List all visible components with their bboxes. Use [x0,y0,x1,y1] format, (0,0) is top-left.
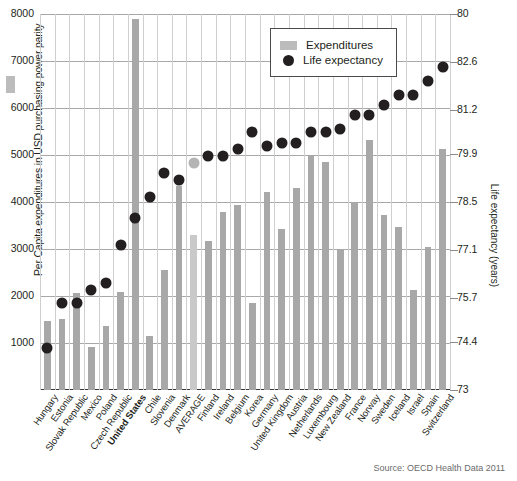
y-tick-right-74.4: 74.4 [457,335,477,347]
y-tick-right-73: 73 [457,383,469,395]
dot-united-kingdom [276,137,287,148]
y-tick-right-82.6: 82.6 [457,55,477,67]
dot-denmark [174,175,185,186]
y-tick-right-77.1: 77.1 [457,243,477,255]
dot-average [188,158,199,169]
dot-norway [364,110,375,121]
y-tick-right-78.5: 78.5 [457,195,477,207]
y-tick-mark-right [450,342,458,343]
source-note: Source: OECD Health Data 2011 [374,463,505,473]
y-tick-mark-right [450,390,458,391]
y-tick-mark-right [450,62,458,63]
dot-netherlands [305,127,316,138]
legend-label-expenditures: Expenditures [306,39,373,51]
legend-item-life-expectancy: Life expectancy [280,54,383,66]
dot-austria [291,137,302,148]
y-tick-left-2000: 2000 [11,289,34,301]
legend-label-life-expectancy: Life expectancy [303,54,383,66]
dot-switzerland [437,62,448,73]
dot-ireland [218,151,229,162]
dot-chile [144,192,155,203]
y-axis-right-title: Life expectancy (years) [489,141,500,331]
dot-new-zealand [335,123,346,134]
dot-spain [423,76,434,87]
chart-legend: Expenditures Life expectancy [270,28,397,77]
y-axis-swatch-icon [6,76,15,93]
y-tick-mark-right [450,250,458,251]
y-tick-mark-right [450,202,458,203]
dot-united-states [130,212,141,223]
dot-korea [247,127,258,138]
y-tick-right-75.7: 75.7 [457,291,477,303]
dot-israel [408,89,419,100]
dot-estonia [56,298,67,309]
y-tick-mark-right [450,110,458,111]
dot-hungary [42,342,53,353]
x-axis-labels: HungaryEstoniaSlovak RepublicMexicoPolan… [40,392,450,468]
y-tick-right-80: 80 [457,7,469,19]
dot-luxembourg [320,127,331,138]
dot-finland [203,151,214,162]
dot-belgium [232,144,243,155]
y-tick-left-7000: 7000 [11,54,34,66]
dot-mexico [86,284,97,295]
dot-germany [261,140,272,151]
y-tick-left-1000: 1000 [11,336,34,348]
y-tick-right-81.2: 81.2 [457,103,477,115]
y-tick-left-8000: 8000 [11,7,34,19]
y-tick-left-3000: 3000 [11,242,34,254]
y-tick-right-79.9: 79.9 [457,147,477,159]
legend-item-expenditures: Expenditures [280,39,383,51]
y-tick-mark-right [450,154,458,155]
y-tick-mark-right [450,298,458,299]
y-tick-mark-right [450,14,458,15]
y-tick-left-6000: 6000 [11,101,34,113]
dot-france [349,110,360,121]
dot-sweden [379,99,390,110]
dot-slovenia [159,168,170,179]
y-tick-left-4000: 4000 [11,195,34,207]
dot-czech-republic [115,240,126,251]
bar-swatch-icon [280,41,297,50]
y-tick-left-5000: 5000 [11,148,34,160]
chart-root: Per Capita expenditures in USD purchasin… [0,0,517,481]
dot-poland [100,277,111,288]
dot-marker-icon [283,55,294,66]
dot-slovak-republic [71,298,82,309]
dot-iceland [393,89,404,100]
